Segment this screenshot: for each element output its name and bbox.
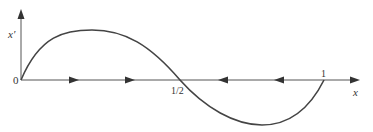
x-axis-arrow-icon — [350, 77, 360, 84]
phase-diagram: x′ 0 1/2 1 x — [0, 0, 373, 132]
flow-arrow-left-icon — [274, 77, 284, 84]
y-axis-label: x′ — [7, 28, 16, 40]
y-axis-arrow-icon — [18, 9, 25, 19]
x-axis-label: x — [352, 86, 358, 98]
flow-arrow-right-icon — [69, 77, 79, 84]
origin-label: 0 — [13, 74, 19, 86]
tick-label-one: 1 — [321, 68, 326, 79]
velocity-curve — [21, 30, 324, 125]
flow-arrow-left-icon — [218, 77, 228, 84]
tick-label-half: 1/2 — [171, 85, 184, 96]
flow-arrow-right-icon — [125, 77, 135, 84]
